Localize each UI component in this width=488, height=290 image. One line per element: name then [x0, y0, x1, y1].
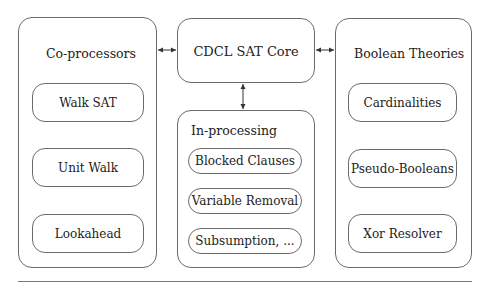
horizontal-rule: [18, 281, 472, 282]
connection-arrows: [0, 0, 488, 290]
